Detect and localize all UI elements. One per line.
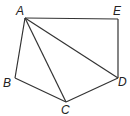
segment-AE xyxy=(25,18,118,19)
segment-AD xyxy=(25,18,118,78)
label-E: E xyxy=(113,4,122,18)
segment-DC xyxy=(66,78,118,102)
label-D: D xyxy=(118,75,127,89)
label-A: A xyxy=(15,4,24,18)
segment-CB xyxy=(15,78,66,102)
pentagon-diagram: A E D C B xyxy=(0,0,130,116)
label-C: C xyxy=(61,103,70,116)
label-B: B xyxy=(3,76,11,90)
segment-BA xyxy=(15,18,25,78)
